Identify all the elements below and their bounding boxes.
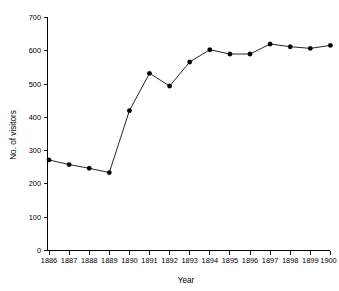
x-tick-label: 1891 (141, 256, 157, 265)
x-tick-label: 1900 (320, 256, 336, 265)
y-axis-title: No. of visitors (9, 110, 18, 160)
y-axis-title-text: No. of visitors (9, 110, 18, 160)
data-point-marker (107, 170, 111, 174)
y-tick-label: 400 (29, 113, 41, 122)
data-point-marker (288, 45, 292, 49)
data-point-marker (167, 84, 171, 88)
data-point-marker (188, 60, 192, 64)
x-tick-label: 1890 (121, 256, 137, 265)
y-tick-label: 600 (29, 46, 41, 55)
y-tick-label: 200 (29, 179, 41, 188)
x-tick-label: 1896 (242, 256, 258, 265)
y-tick-label: 100 (29, 213, 41, 222)
line-chart-canvas: No. of visitors Year 0 100 200 300 400 5… (0, 0, 339, 291)
x-tick-label: 1889 (101, 256, 117, 265)
x-tick-label: 1887 (61, 256, 77, 265)
data-point-marker (328, 43, 332, 47)
x-tick-label: 1892 (161, 256, 177, 265)
y-tick-label: 700 (29, 13, 41, 22)
data-point-marker (87, 166, 91, 170)
x-tick-label: 1893 (181, 256, 197, 265)
x-tick-label: 1894 (202, 256, 218, 265)
x-tick-label: 1899 (302, 256, 318, 265)
data-markers-series-0 (47, 42, 333, 175)
x-tick-label: 1886 (41, 256, 57, 265)
data-point-marker (67, 162, 71, 166)
data-point-marker (127, 108, 131, 112)
data-point-marker (147, 71, 151, 75)
data-point-marker (228, 52, 232, 56)
x-tick-label: 1897 (262, 256, 278, 265)
data-point-marker (268, 42, 272, 46)
chart-figure: No. of visitors Year 0 100 200 300 400 5… (0, 0, 339, 291)
x-axis-title: Year (178, 276, 195, 285)
x-axis-ticks: 1886 1887 1888 1889 1890 1891 1892 1893 … (41, 251, 337, 266)
data-point-marker (308, 46, 312, 50)
x-tick-label: 1888 (81, 256, 97, 265)
y-tick-label: 0 (37, 246, 41, 255)
data-point-marker (248, 52, 252, 56)
data-point-marker (208, 48, 212, 52)
x-tick-label: 1898 (282, 256, 298, 265)
x-axis-title-text: Year (178, 276, 195, 285)
y-tick-label: 500 (29, 80, 41, 89)
data-point-marker (47, 158, 51, 162)
x-tick-label: 1895 (222, 256, 238, 265)
y-tick-label: 300 (29, 146, 41, 155)
y-axis-ticks: 0 100 200 300 400 500 600 700 (29, 13, 48, 255)
